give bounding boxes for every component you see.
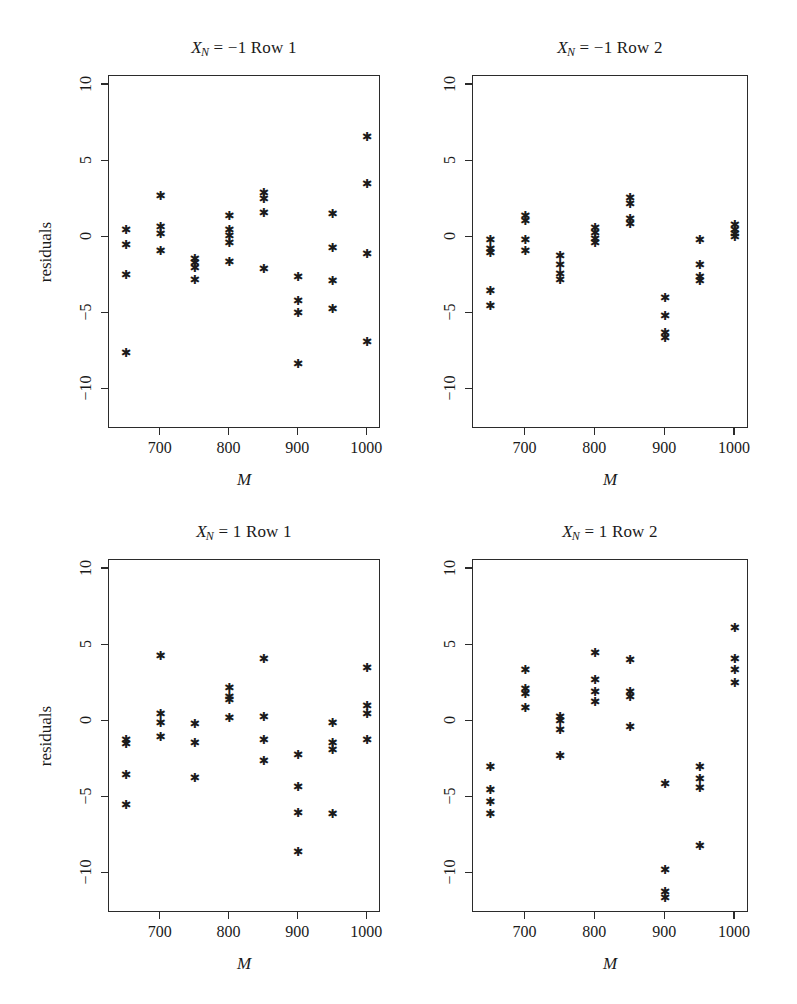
scatter-panel-4: XN = 1 Row 21050−5−107008009001000M (0, 0, 797, 1004)
residual-plot-figure: XN = −1 Row 11050−5−107008009001000Mresi… (0, 0, 797, 1004)
x-axis-tick (733, 912, 734, 919)
y-axis-tick-label: 5 (441, 640, 459, 648)
x-axis-tick (594, 912, 595, 919)
y-axis-tick-label: −5 (441, 788, 459, 805)
panel-title-4: XN = 1 Row 2 (412, 522, 797, 544)
data-point-layer-4 (473, 560, 747, 911)
x-axis-tick-label: 900 (652, 923, 676, 941)
y-axis-tick (465, 796, 472, 797)
y-axis-tick (465, 567, 472, 568)
x-axis-tick (664, 912, 665, 919)
x-axis-title-4: M (472, 954, 748, 974)
y-axis-tick-label: −10 (441, 860, 459, 885)
x-axis-tick-label: 800 (582, 923, 606, 941)
x-axis-tick (524, 912, 525, 919)
title-subscript: N (572, 529, 580, 543)
plot-frame-4 (472, 559, 748, 912)
y-axis-tick-label: 10 (441, 560, 459, 576)
y-axis-tick-label: 0 (441, 716, 459, 724)
y-axis-tick (465, 720, 472, 721)
title-rest: = 1 Row 2 (580, 522, 658, 541)
y-axis-tick (465, 872, 472, 873)
y-axis-tick (465, 644, 472, 645)
x-axis-tick-label: 1000 (718, 923, 750, 941)
x-axis-tick-label: 700 (512, 923, 536, 941)
